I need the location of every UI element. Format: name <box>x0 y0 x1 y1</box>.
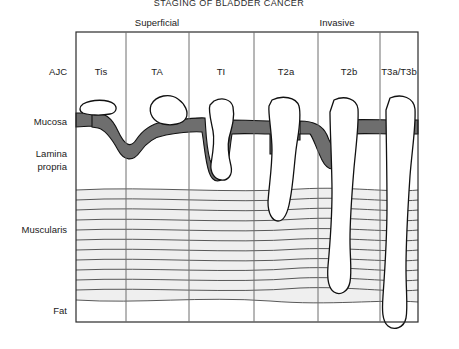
layer-label-fat: Fat <box>53 305 67 316</box>
layer-label-lamina: Lamina <box>36 148 68 159</box>
mucosa-layer <box>76 113 418 181</box>
tumor-tis <box>80 100 116 115</box>
bladder-cancer-staging-figure: STAGING OF BLADDER CANCER Superficial In… <box>0 0 459 349</box>
stage-label-t1: TI <box>217 66 225 77</box>
group-label-superficial: Superficial <box>135 17 179 28</box>
figure-title: STAGING OF BLADDER CANCER <box>154 0 304 8</box>
group-label-invasive: Invasive <box>320 17 355 28</box>
muscularis-layer <box>76 188 418 303</box>
layer-label-propria: propria <box>37 161 67 172</box>
layer-label-mucosa: Mucosa <box>34 116 68 127</box>
stage-label-ta: TA <box>151 66 163 77</box>
layer-label-muscularis: Muscularis <box>22 224 68 235</box>
stage-label-t2b: T2b <box>341 66 357 77</box>
stage-label-t3ab: T3a/T3b <box>381 66 416 77</box>
stage-label-tis: Tis <box>95 66 108 77</box>
tumor-ta <box>150 96 187 125</box>
row-label-ajc: AJC <box>49 66 67 77</box>
stage-label-t2a: T2a <box>278 66 295 77</box>
